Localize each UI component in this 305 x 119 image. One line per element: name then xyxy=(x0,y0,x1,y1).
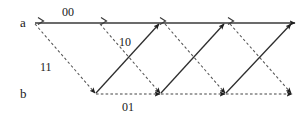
state-label-b: b xyxy=(20,87,27,100)
state-label-a: a xyxy=(20,16,26,29)
trellis-diagram: a b 00 10 11 01 xyxy=(0,0,305,119)
edge-b-to-a-2 xyxy=(161,24,224,93)
edge-group-a-to-b xyxy=(35,24,291,93)
edge-label-b-to-a: 10 xyxy=(119,36,131,48)
edge-group-a-to-a xyxy=(35,18,295,25)
edge-label-a-to-b: 11 xyxy=(40,61,52,73)
edge-a-to-b-1 xyxy=(35,24,95,93)
edge-b-to-a-3 xyxy=(226,24,291,93)
edge-label-a-to-a: 00 xyxy=(62,6,74,18)
edge-a-to-b-3 xyxy=(165,24,225,93)
edge-label-b-to-b: 01 xyxy=(122,101,134,113)
